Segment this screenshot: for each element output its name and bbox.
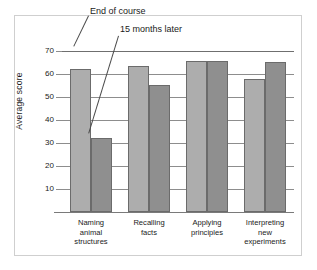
x-tick-label-line: Interpreting	[230, 218, 300, 228]
bar[interactable]	[70, 69, 91, 212]
y-tick-label-40: 40	[20, 115, 54, 124]
y-tick-mark-10	[56, 189, 62, 190]
x-tick-label-line: new	[230, 228, 300, 238]
annotation-label: 15 months later	[120, 24, 182, 34]
bar[interactable]	[149, 85, 170, 212]
plot-area: 70605040302010NaminganimalstructuresReca…	[62, 44, 294, 212]
bar[interactable]	[244, 79, 265, 212]
chart-figure: Average score 70605040302010Naminganimal…	[0, 0, 317, 270]
x-axis-line	[54, 212, 294, 213]
y-tick-label-60: 60	[20, 69, 54, 78]
y-tick-label-10: 10	[20, 184, 54, 193]
y-tick-mark-30	[56, 143, 62, 144]
bar[interactable]	[207, 61, 228, 212]
annotation-label: End of course	[90, 6, 146, 16]
y-tick-mark-20	[56, 166, 62, 167]
x-tick-label-line: experiments	[230, 237, 300, 247]
y-tick-label-70: 70	[20, 46, 54, 55]
y-tick-mark-40	[56, 120, 62, 121]
bar-group	[244, 44, 286, 212]
y-tick-mark-50	[56, 97, 62, 98]
bar-group	[186, 44, 228, 212]
y-tick-label-30: 30	[20, 138, 54, 147]
x-tick-label-line: structures	[56, 237, 126, 247]
bar-group	[128, 44, 170, 212]
bar[interactable]	[265, 62, 286, 212]
y-tick-label-20: 20	[20, 161, 54, 170]
bar-group	[70, 44, 112, 212]
y-tick-mark-70	[56, 51, 62, 52]
bar[interactable]	[128, 66, 149, 212]
bar[interactable]	[186, 61, 207, 212]
x-tick-label: Interpretingnewexperiments	[230, 218, 300, 247]
bar[interactable]	[91, 138, 112, 212]
y-tick-label-50: 50	[20, 92, 54, 101]
y-tick-mark-60	[56, 74, 62, 75]
